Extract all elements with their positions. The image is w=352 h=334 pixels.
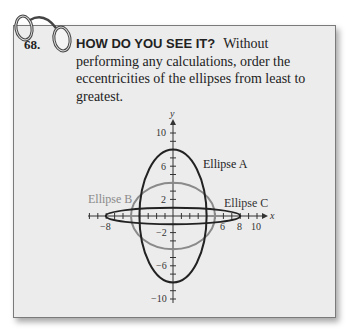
x-axis-arrow xyxy=(262,213,268,219)
label-ellipse-c: Ellipse C xyxy=(224,196,268,210)
y-axis-label: y xyxy=(169,108,175,119)
tick-y-neg10: −10 xyxy=(151,293,167,304)
tick-x-6: 6 xyxy=(220,221,225,232)
ellipse-graph: y x −8 6 8 10 10 6 2 −2 −6 −10 Ellipse A… xyxy=(0,0,352,334)
y-axis-arrow xyxy=(170,119,176,125)
tick-y-2: 2 xyxy=(161,194,166,205)
tick-y-neg2: −2 xyxy=(156,227,167,238)
label-ellipse-b: Ellipse B xyxy=(88,192,132,206)
tick-x-neg8: −8 xyxy=(100,221,111,232)
tick-x-10: 10 xyxy=(251,221,261,232)
tick-y-10: 10 xyxy=(156,127,166,138)
tick-y-6: 6 xyxy=(161,161,166,172)
x-axis-label: x xyxy=(269,210,275,221)
label-ellipse-a: Ellipse A xyxy=(203,157,248,171)
tick-x-8: 8 xyxy=(237,221,242,232)
tick-y-neg6: −6 xyxy=(156,260,167,271)
